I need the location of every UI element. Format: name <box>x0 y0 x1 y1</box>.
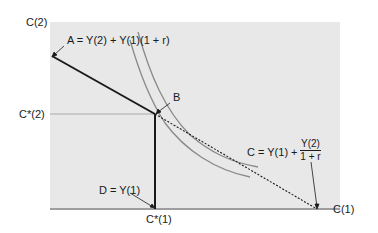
budget-line-dotted <box>155 114 317 209</box>
point-b-label: B <box>173 91 180 103</box>
indifference-curve-inner <box>130 40 250 177</box>
x-axis-label: C(1) <box>333 203 354 215</box>
y-axis-label: C(2) <box>26 16 47 28</box>
point-c-equation-prefix: C = Y(1) + <box>247 146 298 158</box>
point-d-equation: D = Y(1) <box>99 184 140 196</box>
point-a-equation: A = Y(2) + Y(1)(1 + r) <box>67 34 170 46</box>
arrowhead-c <box>315 204 319 209</box>
diagram-canvas <box>0 0 378 233</box>
arrow-c <box>311 162 317 207</box>
point-c-fraction: Y(2) 1 + r <box>300 139 321 162</box>
c-star-1-label: C*(1) <box>146 213 172 225</box>
fraction-numerator: Y(2) <box>300 139 321 151</box>
fraction-denominator: 1 + r <box>300 151 321 162</box>
budget-line-solid <box>52 56 155 114</box>
c-star-2-label: C*(2) <box>19 108 45 120</box>
